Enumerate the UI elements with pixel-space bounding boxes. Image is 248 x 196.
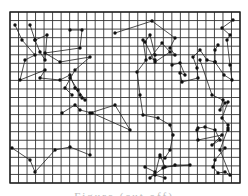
route-node — [210, 143, 213, 146]
route-node — [60, 111, 63, 114]
route-node — [178, 61, 181, 64]
route-node — [220, 133, 223, 136]
route-node — [153, 58, 156, 61]
route-node — [80, 28, 83, 31]
route-node — [168, 50, 171, 53]
route-node — [68, 76, 71, 79]
route-node — [23, 58, 26, 61]
route-node — [76, 88, 79, 91]
route-node — [20, 38, 23, 41]
route-node — [153, 173, 156, 176]
route-node — [163, 156, 166, 159]
route-node — [226, 123, 229, 126]
route-path — [45, 30, 90, 95]
route-node — [226, 100, 229, 103]
route-node — [173, 163, 176, 166]
route-node — [78, 46, 81, 49]
route-node — [73, 103, 76, 106]
route-node — [223, 101, 226, 104]
route-node — [73, 86, 76, 89]
route-node — [191, 55, 194, 58]
route-node — [78, 93, 81, 96]
route-node — [33, 53, 36, 56]
route-node — [196, 76, 199, 79]
route-node — [211, 165, 214, 168]
route-node — [13, 23, 16, 26]
route-node — [180, 80, 183, 83]
route-node — [28, 158, 31, 161]
route-node — [88, 111, 91, 114]
route-node — [216, 43, 219, 46]
route-node — [160, 41, 163, 44]
route-node — [10, 146, 13, 149]
route-node — [28, 23, 31, 26]
route-node — [38, 76, 41, 79]
route-node — [168, 148, 171, 151]
route-node — [144, 58, 147, 61]
route-node — [228, 173, 231, 176]
route-node — [168, 123, 171, 126]
route-node — [148, 56, 151, 59]
route-node — [73, 68, 76, 71]
route-node — [68, 145, 71, 148]
route-node — [198, 48, 201, 51]
route-node — [213, 128, 216, 131]
route-node — [33, 170, 36, 173]
route-node — [141, 38, 144, 41]
route-node — [220, 116, 223, 119]
route-node — [128, 128, 131, 131]
route-node — [43, 68, 46, 71]
route-node — [173, 53, 176, 56]
route-node — [218, 148, 221, 151]
route-node — [203, 125, 206, 128]
route-node — [135, 70, 138, 73]
route-node — [68, 73, 71, 76]
route-node — [198, 58, 201, 61]
route-node — [58, 60, 61, 63]
route-node — [38, 50, 41, 53]
route-node — [223, 146, 226, 149]
route-node — [88, 55, 91, 58]
route-node — [143, 165, 146, 168]
route-node — [113, 31, 116, 34]
route-node — [68, 28, 71, 31]
route-node — [141, 113, 144, 116]
route-node — [78, 108, 81, 111]
route-node — [138, 93, 141, 96]
route-node — [58, 78, 61, 81]
route-node — [43, 58, 46, 61]
route-node — [33, 38, 36, 41]
route-node — [168, 46, 171, 49]
route-node — [150, 19, 153, 22]
route-node — [195, 66, 198, 69]
route-node — [170, 63, 173, 66]
route-node — [171, 133, 174, 136]
route-node — [113, 103, 116, 106]
route-node — [158, 153, 161, 156]
route-node — [163, 176, 166, 179]
figure-caption: Figure (cut off) — [0, 188, 248, 196]
route-node — [188, 163, 191, 166]
route-node — [231, 18, 234, 21]
route-node — [222, 73, 225, 76]
route-node — [148, 33, 151, 36]
route-node — [213, 48, 216, 51]
route-node — [230, 78, 233, 81]
route-node — [226, 126, 229, 129]
route-node — [228, 63, 231, 66]
route-node — [228, 33, 231, 36]
route-node — [153, 53, 156, 56]
route-node — [148, 176, 151, 179]
route-node — [223, 170, 226, 173]
route-node — [53, 148, 56, 151]
route-node — [205, 58, 208, 61]
route-node — [45, 33, 48, 36]
route-diagram — [0, 0, 248, 196]
route-node — [80, 96, 83, 99]
route-node — [221, 98, 224, 101]
route-node — [153, 170, 156, 173]
route-node — [43, 51, 46, 54]
route-node — [220, 26, 223, 29]
route-node — [218, 108, 221, 111]
route-node — [196, 138, 199, 141]
